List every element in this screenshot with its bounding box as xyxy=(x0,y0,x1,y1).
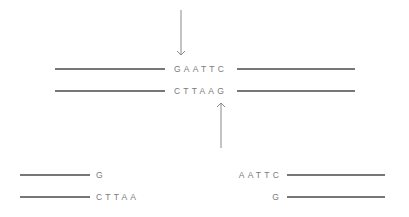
left-fragment-top-sequence: G xyxy=(96,170,106,180)
top-cut-arrow xyxy=(177,10,185,55)
intact-top-sequence: GAATTC xyxy=(174,64,227,74)
left-fragment-bottom-sequence: CTTAA xyxy=(96,192,139,202)
restriction-diagram: GAATTC CTTAAG G CTTAA AATTC G xyxy=(0,0,409,217)
left-fragment: G CTTAA xyxy=(20,170,139,202)
intact-bottom-sequence: CTTAAG xyxy=(174,86,227,96)
right-fragment: AATTC G xyxy=(239,170,385,202)
right-fragment-bottom-sequence: G xyxy=(272,192,282,202)
right-fragment-top-sequence: AATTC xyxy=(239,170,282,180)
bottom-cut-arrow xyxy=(217,103,225,148)
